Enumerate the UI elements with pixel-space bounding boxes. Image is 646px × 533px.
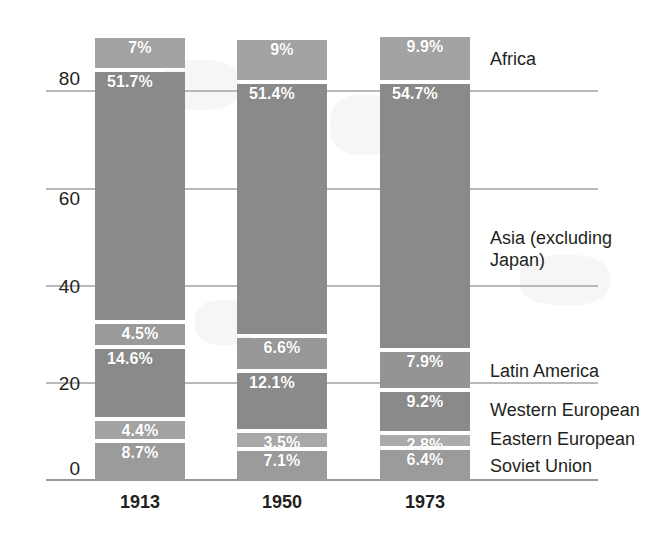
segment-value: 6.6% — [237, 339, 327, 357]
segment-value: 14.6% — [107, 350, 153, 368]
x-axis-label-1973: 1973 — [380, 492, 470, 513]
x-axis-label-1913: 1913 — [95, 492, 185, 513]
segment-1950-soviet-union[interactable]: 7.1% — [237, 451, 327, 479]
segment-value: 51.7% — [107, 73, 153, 91]
segment-1913-eastern-european[interactable]: 4.4% — [95, 421, 185, 441]
segment-value: 9.9% — [380, 38, 470, 56]
segment-1913-asia[interactable]: 51.7% — [95, 72, 185, 322]
segment-value: 54.7% — [392, 85, 438, 103]
segment-value: 6.4% — [380, 451, 470, 469]
segment-1973-western-european[interactable]: 9.2% — [380, 392, 470, 433]
stacked-bar-chart: 80 60 40 20 0 7% 51.7% 4.5% 14.6% 4.4% 8… — [0, 0, 646, 533]
segment-1913-western-european[interactable]: 14.6% — [95, 349, 185, 419]
segment-value: 7.9% — [380, 353, 470, 371]
segment-1950-eastern-european[interactable]: 3.5% — [237, 433, 327, 449]
segment-1950-africa[interactable]: 9% — [237, 40, 327, 82]
bar-1913[interactable]: 7% 51.7% 4.5% 14.6% 4.4% 8.7% — [95, 38, 185, 479]
series-label-asia: Asia (excluding Japan) — [490, 228, 612, 272]
segment-1973-soviet-union[interactable]: 6.4% — [380, 450, 470, 479]
segment-value: 12.1% — [249, 374, 295, 392]
y-tick-label-60: 60 — [24, 188, 80, 210]
segment-value: 8.7% — [95, 444, 185, 462]
series-label-latin-america: Latin America — [490, 361, 599, 383]
segment-1973-eastern-european[interactable]: 2.8% — [380, 435, 470, 448]
y-tick-label-40: 40 — [24, 276, 80, 298]
segment-value: 9.2% — [380, 393, 470, 411]
segment-1973-latin-america[interactable]: 7.9% — [380, 352, 470, 390]
series-label-eastern-european: Eastern European — [490, 429, 635, 451]
segment-1973-asia[interactable]: 54.7% — [380, 84, 470, 350]
segment-value: 4.4% — [95, 422, 185, 440]
bar-1973[interactable]: 9.9% 54.7% 7.9% 9.2% 2.8% 6.4% — [380, 37, 470, 479]
segment-1913-africa[interactable]: 7% — [95, 38, 185, 70]
y-tick-label-0: 0 — [24, 458, 80, 480]
y-tick-label-20: 20 — [24, 373, 80, 395]
series-label-soviet-union: Soviet Union — [490, 456, 592, 478]
segment-value: 3.5% — [237, 434, 327, 452]
segment-value: 7% — [95, 39, 185, 57]
segment-value: 51.4% — [249, 85, 295, 103]
segment-1950-western-european[interactable]: 12.1% — [237, 373, 327, 431]
segment-1950-asia[interactable]: 51.4% — [237, 84, 327, 336]
segment-1913-latin-america[interactable]: 4.5% — [95, 324, 185, 347]
series-label-africa: Africa — [490, 49, 536, 71]
segment-value: 7.1% — [237, 452, 327, 470]
gridline-0-baseline — [46, 479, 598, 481]
series-label-western-european: Western European — [490, 400, 640, 422]
segment-1913-soviet-union[interactable]: 8.7% — [95, 443, 185, 479]
segment-value: 4.5% — [95, 325, 185, 343]
bar-1950[interactable]: 9% 51.4% 6.6% 12.1% 3.5% 7.1% — [237, 40, 327, 479]
x-axis-label-1950: 1950 — [237, 492, 327, 513]
y-tick-label-80: 80 — [24, 68, 80, 90]
segment-1973-africa[interactable]: 9.9% — [380, 37, 470, 82]
segment-1950-latin-america[interactable]: 6.6% — [237, 338, 327, 371]
segment-value: 9% — [237, 41, 327, 59]
